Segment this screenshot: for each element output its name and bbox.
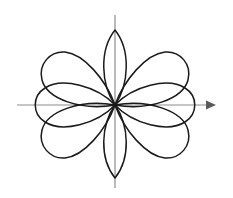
rose-curve-canvas — [0, 0, 233, 198]
figure-background — [0, 0, 233, 198]
rose-curve-figure — [0, 0, 233, 198]
